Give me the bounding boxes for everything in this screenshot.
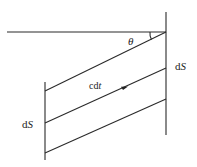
arrowhead-icon (121, 87, 128, 91)
ds-left-label: dS (22, 118, 34, 130)
cdt-label: cdt (89, 80, 101, 91)
diagram-canvas: θ cdt dS dS (0, 0, 197, 167)
ds-right-label: dS (175, 60, 187, 72)
ray-line-3 (45, 99, 166, 153)
ray-line-2 (45, 68, 166, 123)
ray-line-1 (45, 32, 166, 91)
angle-arc (150, 32, 152, 40)
theta-label: θ (128, 35, 134, 47)
